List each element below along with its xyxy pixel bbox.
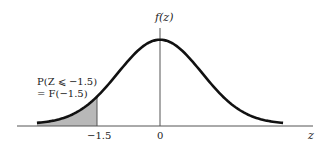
y-axis-label: f(z) — [154, 11, 173, 24]
annotation-line-2: = F(−1.5) — [37, 88, 88, 99]
tick-label-neg1-5: −1.5 — [87, 130, 111, 141]
annotation-line-1: P(Z ⩽ −1.5) — [37, 76, 97, 87]
x-axis-label: z — [307, 129, 314, 142]
tick-label-0: 0 — [157, 130, 163, 141]
normal-distribution-diagram: f(z) z −1.5 0 P(Z ⩽ −1.5) = F(−1.5) — [0, 0, 330, 145]
